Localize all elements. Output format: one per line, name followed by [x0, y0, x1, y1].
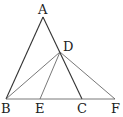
- label-a: A: [37, 2, 48, 17]
- label-d: D: [63, 39, 73, 54]
- segment-ab: [6, 17, 43, 99]
- label-c: C: [77, 101, 87, 116]
- label-e: E: [35, 101, 45, 116]
- segment-de: [40, 52, 60, 99]
- label-f: F: [111, 101, 120, 116]
- segment-ac: [43, 17, 82, 99]
- segment-bd: [6, 52, 60, 99]
- segment-df: [60, 52, 115, 99]
- label-b: B: [1, 101, 11, 116]
- geometry-diagram: A B E C F D: [0, 0, 123, 117]
